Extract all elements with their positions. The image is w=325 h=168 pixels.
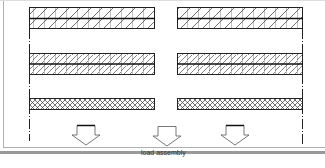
arrow-2-down-icon bbox=[153, 127, 181, 147]
load-assembly-diagram bbox=[0, 0, 325, 168]
arrow-1-down-icon bbox=[72, 126, 100, 146]
row-3-right-bar bbox=[178, 99, 303, 110]
row-2-right-bar bbox=[177, 54, 303, 75]
load-assembly-label: load assembly bbox=[141, 149, 186, 156]
row-3-left-bar bbox=[30, 99, 155, 110]
row-1-right-bar bbox=[177, 8, 303, 29]
row-2-left-bar bbox=[29, 54, 155, 75]
arrow-3-down-icon bbox=[221, 126, 249, 146]
row-1-left-bar bbox=[29, 8, 155, 29]
